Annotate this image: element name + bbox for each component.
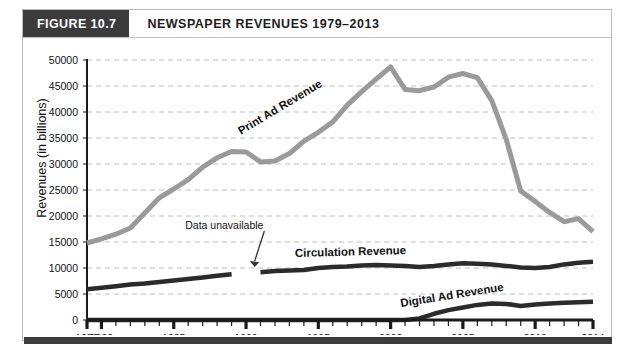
- y-tick-label: 0: [72, 314, 78, 326]
- y-tick-label: 5000: [55, 288, 79, 300]
- x-tick-label: 1980: [90, 332, 114, 335]
- x-tick-label: 2010: [523, 332, 547, 335]
- annotation-leader-line: [255, 231, 265, 261]
- x-tick-label: 1995: [307, 332, 331, 335]
- y-tick-label: 40000: [49, 106, 78, 118]
- series-line-digital-ad-revenue: [87, 302, 593, 320]
- y-tick-label: 35000: [49, 132, 78, 144]
- figure-header: FIGURE 10.7 NEWSPAPER REVENUES 1979–2013: [23, 10, 611, 38]
- x-tick-label: 2000: [379, 332, 403, 335]
- x-tick-label: 2014: [581, 332, 605, 335]
- revenue-line-chart: 0500010000150002000025000300003500040000…: [23, 39, 611, 335]
- x-tick-label: 1985: [162, 332, 186, 335]
- x-tick-label: 2005: [451, 332, 475, 335]
- figure-title: NEWSPAPER REVENUES 1979–2013: [129, 10, 379, 37]
- plot-area: Revenues (in billions) 05000100001500020…: [23, 39, 611, 335]
- y-tick-label: 20000: [49, 210, 78, 222]
- y-tick-label: 25000: [49, 184, 78, 196]
- figure-bottom-rule: [24, 337, 612, 344]
- y-tick-label: 45000: [49, 80, 78, 92]
- series-label-circulation: Circulation Revenue: [295, 244, 406, 259]
- y-tick-label: 10000: [49, 262, 78, 274]
- y-tick-label: 30000: [49, 158, 78, 170]
- series-line-circulation-revenue: [261, 262, 594, 272]
- x-tick-label: 1990: [234, 332, 258, 335]
- annotation-arrowhead: [250, 261, 260, 267]
- y-tick-label: 15000: [49, 236, 78, 248]
- annotation-data-unavailable: Data unavailable: [185, 219, 263, 231]
- figure-number-tag: FIGURE 10.7: [23, 10, 129, 37]
- y-tick-label: 50000: [49, 54, 78, 66]
- series-line-print-ad-revenue: [87, 67, 593, 243]
- figure-container: FIGURE 10.7 NEWSPAPER REVENUES 1979–2013…: [0, 0, 626, 361]
- series-line-circulation-revenue: [87, 274, 232, 289]
- series-label-text-circulation: Circulation Revenue: [295, 244, 406, 259]
